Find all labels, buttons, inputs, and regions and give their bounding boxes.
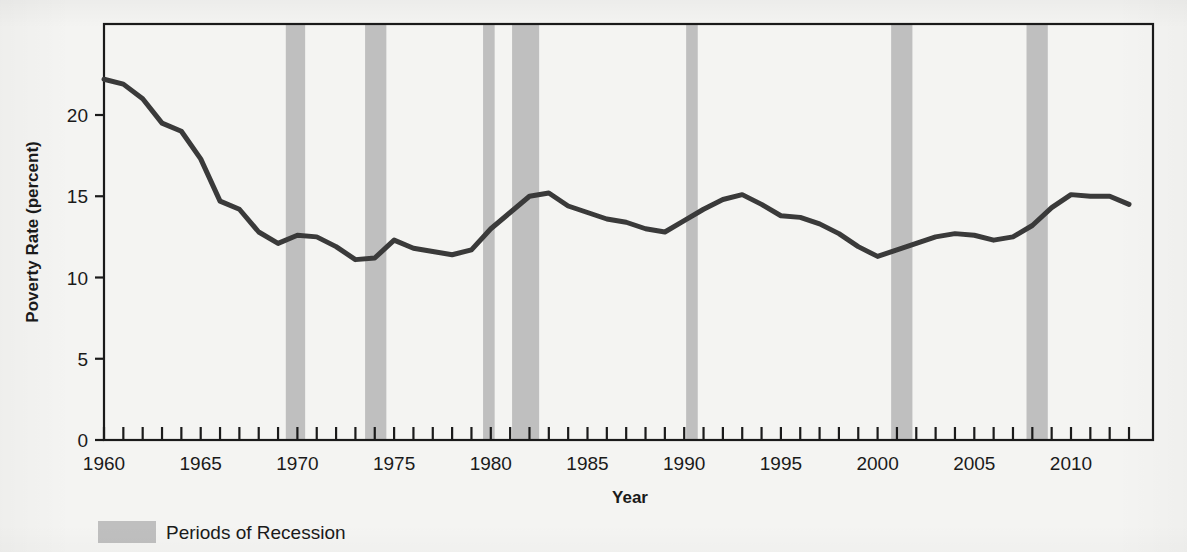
x-tick-label: 2000 bbox=[856, 453, 898, 474]
x-tick-label: 1960 bbox=[83, 453, 125, 474]
y-tick-label: 0 bbox=[77, 430, 88, 451]
recession-band bbox=[1027, 24, 1048, 440]
x-tick-label: 2010 bbox=[1050, 453, 1092, 474]
x-tick-label: 2005 bbox=[953, 453, 995, 474]
y-tick-label: 10 bbox=[67, 268, 88, 289]
x-tick-label: 1990 bbox=[663, 453, 705, 474]
legend: Periods of Recession bbox=[98, 521, 346, 543]
x-tick-label: 1970 bbox=[276, 453, 318, 474]
y-tick-label: 15 bbox=[67, 186, 88, 207]
legend-label-recession: Periods of Recession bbox=[166, 522, 346, 543]
x-axis-ticks bbox=[104, 427, 1129, 440]
x-tick-label: 1975 bbox=[373, 453, 415, 474]
y-tick-label: 20 bbox=[67, 105, 88, 126]
data-line-group bbox=[104, 79, 1129, 259]
poverty-rate-chart: 05101520 1960196519701975198019851990199… bbox=[0, 0, 1187, 552]
x-axis-title: Year bbox=[612, 488, 648, 507]
recession-band bbox=[512, 24, 539, 440]
x-axis-tick-labels: 1960196519701975198019851990199520002005… bbox=[83, 453, 1092, 474]
y-tick-label: 5 bbox=[77, 349, 88, 370]
recession-band bbox=[286, 24, 305, 440]
legend-swatch-recession bbox=[98, 521, 156, 543]
x-tick-label: 1995 bbox=[760, 453, 802, 474]
recession-band bbox=[686, 24, 698, 440]
y-axis-ticks bbox=[95, 115, 104, 440]
y-axis-title: Poverty Rate (percent) bbox=[23, 141, 42, 322]
recession-band bbox=[891, 24, 912, 440]
x-tick-label: 1965 bbox=[180, 453, 222, 474]
y-axis-tick-labels: 05101520 bbox=[67, 105, 88, 451]
chart-page: 05101520 1960196519701975198019851990199… bbox=[0, 0, 1187, 552]
data-line bbox=[104, 79, 1129, 259]
x-tick-label: 1980 bbox=[470, 453, 512, 474]
recession-band bbox=[365, 24, 386, 440]
x-tick-label: 1985 bbox=[566, 453, 608, 474]
